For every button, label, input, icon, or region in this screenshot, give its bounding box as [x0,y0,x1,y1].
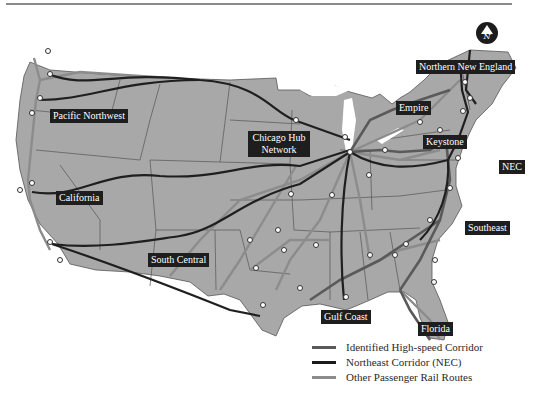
compass-label: N [476,32,498,41]
region-label-keystone: Keystone [423,135,467,149]
legend-item-nec: Northeast Corridor (NEC) [312,355,483,369]
map-legend: Identified High-speed Corridor Northeast… [312,340,483,385]
region-label-chicago-hub: Chicago Hub Network [248,131,310,157]
region-label-california: California [56,191,103,205]
legend-item-other: Other Passenger Rail Routes [312,370,483,384]
legend-label: Other Passenger Rail Routes [346,371,472,383]
legend-swatch-icon [312,361,336,364]
legend-item-high-speed: Identified High-speed Corridor [312,340,483,354]
region-label-florida: Florida [418,322,453,336]
compass-rose: N [476,22,498,44]
legend-label: Identified High-speed Corridor [346,341,483,353]
region-label-gulf-coast: Gulf Coast [321,310,371,324]
legend-swatch-icon [312,346,336,349]
region-label-south-central: South Central [148,253,209,267]
region-label-southeast: Southeast [465,221,510,235]
legend-swatch-icon [312,376,336,379]
region-label-pacific-northwest: Pacific Northwest [50,109,128,123]
region-label-northern-new-england: Northern New England [416,60,515,74]
region-label-nec: NEC [499,160,525,174]
legend-label: Northeast Corridor (NEC) [346,356,461,368]
region-label-empire: Empire [396,101,431,115]
